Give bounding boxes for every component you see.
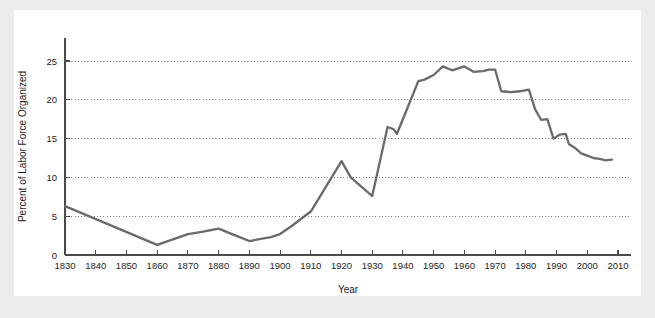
x-tick-label-2000: 2000 [577, 260, 598, 271]
x-tick-label-1840: 1840 [85, 260, 106, 271]
x-tick-label-1900: 1900 [269, 260, 290, 271]
y-tick-label-10: 10 [46, 172, 57, 183]
x-tick-label-1920: 1920 [331, 260, 352, 271]
x-tick-label-1860: 1860 [147, 260, 168, 271]
x-tick-label-1950: 1950 [423, 260, 444, 271]
x-tick-label-1990: 1990 [546, 260, 567, 271]
x-tick-label-1870: 1870 [177, 260, 198, 271]
axes-group [65, 38, 631, 255]
x-tick-label-1960: 1960 [454, 260, 475, 271]
y-tick-label-15: 15 [46, 133, 57, 144]
y-axis-title: Percent of Labor Force Organized [17, 71, 28, 222]
line-chart: 1830184018501860187018801890190019101920… [0, 0, 655, 318]
y-tick-label-0: 0 [52, 250, 57, 261]
x-axis-title: Year [338, 284, 359, 295]
x-tick-label-1890: 1890 [239, 260, 260, 271]
y-tick-label-5: 5 [52, 211, 57, 222]
series-line-0 [65, 66, 612, 244]
x-tick-label-1940: 1940 [392, 260, 413, 271]
y-tick-label-25: 25 [46, 56, 57, 67]
x-tick-label-1850: 1850 [116, 260, 137, 271]
x-tick-label-1910: 1910 [300, 260, 321, 271]
x-tick-label-1980: 1980 [515, 260, 536, 271]
x-tick-label-1880: 1880 [208, 260, 229, 271]
gridlines-group [65, 61, 631, 216]
x-tick-label-1930: 1930 [362, 260, 383, 271]
y-tick-group: 0510152025 [46, 56, 70, 261]
x-tick-group: 1830184018501860187018801890190019101920… [54, 250, 628, 271]
chart-figure: 1830184018501860187018801890190019101920… [0, 0, 655, 318]
x-tick-label-1830: 1830 [54, 260, 75, 271]
data-series-group [65, 66, 612, 244]
x-tick-label-1970: 1970 [485, 260, 506, 271]
x-tick-label-2010: 2010 [607, 260, 628, 271]
y-tick-label-20: 20 [46, 94, 57, 105]
